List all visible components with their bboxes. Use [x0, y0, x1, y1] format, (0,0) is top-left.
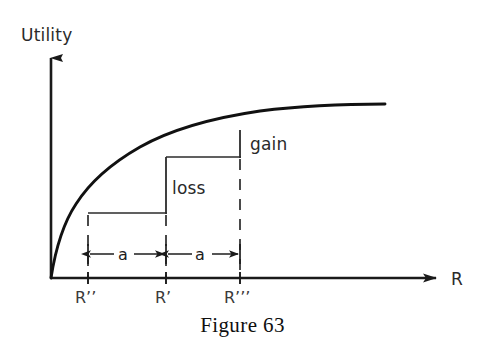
- gain-construction-group: gain: [166, 130, 288, 158]
- figure-caption: Figure 63: [0, 313, 485, 338]
- loss-label: loss: [172, 178, 206, 198]
- tick-label-r1: R’: [155, 288, 171, 307]
- x-axis-label: R: [451, 269, 463, 289]
- dimension-group: a a: [88, 244, 240, 264]
- dimension-label-left: a: [118, 245, 128, 264]
- gain-label: gain: [250, 134, 288, 154]
- tick-label-r2: R’’: [75, 288, 96, 307]
- drop-lines-group: [88, 159, 240, 277]
- x-tick-label-group: R’’ R’ R’’’: [75, 288, 250, 307]
- figure-container: Utility R loss gain: [0, 0, 485, 354]
- loss-construction-group: loss: [88, 157, 206, 214]
- y-axis-label: Utility: [21, 25, 72, 45]
- tick-label-r3: R’’’: [224, 288, 250, 307]
- dimension-label-right: a: [195, 245, 205, 264]
- utility-curve: [51, 104, 385, 278]
- utility-curve-plot: Utility R loss gain: [0, 0, 485, 354]
